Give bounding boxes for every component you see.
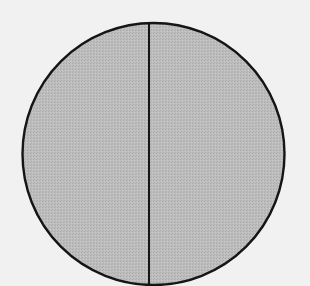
circle-fill xyxy=(23,23,285,285)
halved-circle-diagram xyxy=(0,0,310,286)
diagram-canvas xyxy=(0,0,310,286)
